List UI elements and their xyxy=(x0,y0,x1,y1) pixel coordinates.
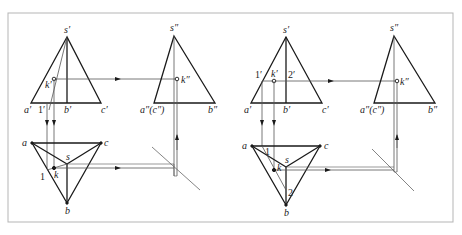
label-2-r: 2 xyxy=(288,187,293,198)
label-b-r: b xyxy=(284,207,289,218)
label-1-prime: 1′ xyxy=(38,104,45,115)
label-s-r: s xyxy=(285,154,289,165)
left-diagram: s′ k′ a′ 1′ b′ c′ s″ k″ a″(c″) b″ xyxy=(22,22,218,216)
right-diagram: s′ 1′ k′ 2′ a′ b′ c′ s″ k″ a″(c″) b″ xyxy=(242,22,438,218)
figure-frame xyxy=(8,13,453,222)
label-k-prime: k′ xyxy=(45,79,52,90)
label-a-prime-r: a′ xyxy=(244,104,252,115)
label-s-prime-r: s′ xyxy=(283,24,290,35)
figure: s′ k′ a′ 1′ b′ c′ s″ k″ a″(c″) b″ xyxy=(0,0,462,235)
label-s-prime: s′ xyxy=(64,24,71,35)
label-k-double-prime-r: k″ xyxy=(400,76,409,87)
label-s-double-prime-r: s″ xyxy=(390,22,399,33)
label-c: c xyxy=(104,137,109,148)
label-s: s xyxy=(66,151,70,162)
label-a: a xyxy=(22,137,27,148)
label-b-double-prime-r: b″ xyxy=(428,104,438,115)
label-a-c-double-prime: a″(c″) xyxy=(140,104,165,116)
label-k-prime-r: k′ xyxy=(271,68,278,79)
label-1-r: 1 xyxy=(265,146,270,157)
label-b-double-prime: b″ xyxy=(208,104,218,115)
label-k-r: k xyxy=(277,162,282,173)
label-b-prime: b′ xyxy=(64,104,72,115)
label-1: 1 xyxy=(40,171,45,182)
label-a-c-double-prime-r: a″(c″) xyxy=(360,104,385,116)
label-1-prime-r: 1′ xyxy=(255,69,262,80)
label-a-prime: a′ xyxy=(24,104,32,115)
projection-drawing: s′ k′ a′ 1′ b′ c′ s″ k″ a″(c″) b″ xyxy=(0,0,462,235)
label-k-double-prime: k″ xyxy=(181,74,190,85)
label-s-double-prime: s″ xyxy=(170,22,179,33)
label-a-r: a xyxy=(242,140,247,151)
left-top-view xyxy=(31,142,177,204)
right-top-view xyxy=(251,145,397,206)
label-c-prime: c′ xyxy=(101,104,108,115)
label-c-prime-r: c′ xyxy=(322,104,329,115)
label-2-prime-r: 2′ xyxy=(288,69,295,80)
label-b: b xyxy=(65,205,70,216)
label-c-r: c xyxy=(324,140,329,151)
label-k: k xyxy=(54,169,59,180)
label-b-prime-r: b′ xyxy=(283,104,291,115)
